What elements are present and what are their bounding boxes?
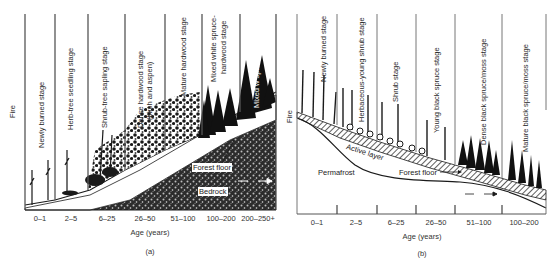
age-tick: 26–50	[426, 218, 447, 227]
age-tick: 6–25	[388, 218, 405, 227]
stage-label: Shrub-tree sapling stage	[101, 46, 109, 128]
age-tick: 6–25	[99, 214, 116, 223]
age-tick: 100–200	[509, 218, 538, 227]
stage-label: Shrub stage	[392, 62, 400, 102]
panel-b-permafrost-succession: Fire Newly burned stage Herbaceous-young…	[280, 0, 559, 264]
age-tick: 0–1	[34, 214, 47, 223]
age-tick: 26–50	[135, 214, 156, 223]
age-tick: 0–1	[311, 218, 324, 227]
permafrost-label: Permafrost	[318, 168, 355, 177]
age-tick: 51–100	[170, 214, 195, 223]
stage-label: Mixed white spruce-	[210, 15, 218, 82]
stage-label: Young black spruce stage	[433, 47, 441, 133]
age-tick: 2–5	[65, 214, 78, 223]
stage-label: Mature hardwood stage	[180, 17, 188, 96]
age-tick: 200–250+	[241, 214, 275, 223]
stage-label: Newly burned stage	[320, 16, 328, 82]
panel-tag-b: (b)	[417, 249, 426, 258]
x-axis-title: Age (years)	[131, 228, 170, 237]
panel-tag-a: (a)	[145, 247, 154, 256]
fire-label: Fire	[9, 105, 17, 118]
stage-label: Mixed w spruce/moss stage	[253, 15, 261, 108]
organic-layer	[297, 112, 546, 200]
bedrock-label: Bedrock	[198, 187, 228, 196]
stage-label: Mature black spruce/moss stage	[522, 44, 530, 152]
stage-label: Herb-tree seedling stage	[67, 48, 75, 130]
forest-floor-label: Forest floor	[399, 168, 437, 177]
forest-floor-label: Forest floor	[192, 163, 232, 172]
stage-label: Herbaceous-young shrub stage	[358, 17, 366, 122]
x-axis-title: Age (years)	[403, 232, 442, 241]
stage-label: (birch and aspen)	[146, 62, 154, 120]
stage-label: hardwood stage	[220, 21, 228, 74]
stage-label: Newly burned stage	[38, 82, 46, 148]
age-tick: 51–100	[466, 218, 491, 227]
panel-a-upland-succession: Fire Newly burned stage Herb-tree seedli…	[0, 0, 280, 264]
stage-label: Dense hardwood stage	[137, 51, 145, 128]
stage-label: Dense black spruce/moss stage	[480, 39, 488, 145]
age-tick: 100–200	[206, 214, 235, 223]
fire-label: Fire	[286, 110, 294, 123]
age-tick: 2–5	[350, 218, 363, 227]
north-arrow-icon	[465, 192, 497, 196]
